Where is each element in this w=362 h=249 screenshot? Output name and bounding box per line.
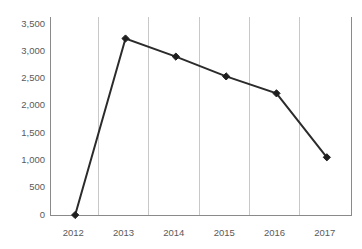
x-tick-label-2012: 2012 (63, 227, 84, 238)
chart-canvas: 0 500 1,000 1,500 2,000 2,500 3,000 3,50… (0, 0, 362, 249)
y-tick-label-1: 500 (29, 181, 45, 192)
x-tick-label-2014: 2014 (163, 227, 184, 238)
x-tick-label-2015: 2015 (214, 227, 235, 238)
y-tick-label-2: 1,000 (21, 154, 45, 165)
plot-area-background (50, 17, 352, 215)
x-axis-tick-labels: 2012 2013 2014 2015 2016 2017 (63, 227, 336, 238)
x-tick-label-2017: 2017 (314, 227, 335, 238)
y-tick-label-4: 2,000 (21, 99, 45, 110)
x-tick-label-2013: 2013 (113, 227, 134, 238)
line-chart: 0 500 1,000 1,500 2,000 2,500 3,000 3,50… (0, 0, 362, 249)
y-tick-label-3: 1,500 (21, 127, 45, 138)
y-tick-label-0: 0 (40, 209, 45, 220)
y-tick-label-7: 3,500 (21, 18, 45, 29)
y-axis-tick-labels: 0 500 1,000 1,500 2,000 2,500 3,000 3,50… (21, 18, 45, 220)
x-tick-label-2016: 2016 (264, 227, 285, 238)
y-tick-label-5: 2,500 (21, 72, 45, 83)
y-tick-label-6: 3,000 (21, 45, 45, 56)
